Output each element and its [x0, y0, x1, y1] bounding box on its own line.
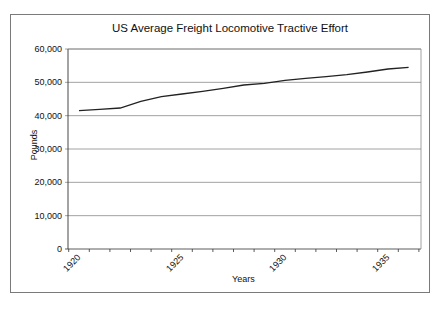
- plot-area: 010,00020,00030,00040,00050,00060,000 19…: [0, 0, 440, 310]
- axes: [68, 49, 421, 252]
- x-tick-label: 1935: [370, 252, 391, 273]
- y-tick-labels: 010,00020,00030,00040,00050,00060,000: [34, 44, 62, 254]
- y-tick-label: 60,000: [34, 44, 62, 54]
- y-tick-label: 50,000: [34, 77, 62, 87]
- y-tick-label: 30,000: [34, 144, 62, 154]
- data-line: [79, 67, 409, 110]
- x-tick-label: 1920: [61, 252, 82, 273]
- y-tick-label: 10,000: [34, 211, 62, 221]
- y-tick-label: 40,000: [34, 111, 62, 121]
- y-tick-label: 0: [57, 244, 62, 254]
- x-tick-label: 1925: [164, 252, 185, 273]
- y-tick-label: 20,000: [34, 177, 62, 187]
- gridlines: [65, 49, 421, 249]
- x-tick-label: 1930: [267, 252, 288, 273]
- x-tick-labels: 1920192519301935: [61, 252, 391, 273]
